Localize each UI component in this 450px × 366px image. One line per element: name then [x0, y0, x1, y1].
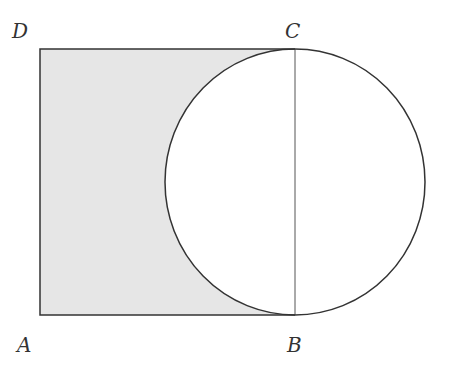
label-c: C: [285, 19, 300, 43]
label-d: D: [11, 19, 28, 43]
label-b: B: [286, 333, 302, 357]
geometry-diagram: D C A B: [0, 0, 450, 366]
shaded-region: [40, 49, 425, 315]
label-a: A: [15, 333, 31, 357]
